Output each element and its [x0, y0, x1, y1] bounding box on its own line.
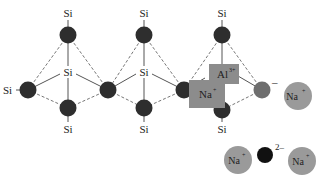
- tetrahedron-1: Si Si Si Si: [3, 7, 77, 135]
- sodium-ion: Na +: [284, 82, 312, 110]
- oxide-charge: 2–: [275, 142, 285, 152]
- tetrahedron-3: Si Si Al 3+ Na + –: [189, 7, 278, 135]
- oxygen-atom: [136, 27, 153, 44]
- na-label: Na: [199, 88, 212, 100]
- si-label-bottom: Si: [139, 123, 148, 135]
- svg-text:Na: Na: [228, 155, 240, 166]
- oxygen-atom: [136, 100, 153, 117]
- si-center-label: Si: [139, 66, 148, 78]
- sodium-ion: Na +: [288, 147, 316, 175]
- sodium-ion: Na +: [224, 146, 252, 174]
- si-center-label: Si: [63, 66, 72, 78]
- svg-text:Na: Na: [292, 156, 304, 167]
- oxygen-atom-negative: [254, 82, 271, 99]
- oxygen-atom: [60, 27, 77, 44]
- si-label-top: Si: [139, 7, 148, 19]
- free-ions: Na + Na + 2– Na +: [224, 82, 316, 175]
- oxygen-atom: [20, 82, 37, 99]
- si-label-bottom: Si: [217, 123, 226, 135]
- oxide-ion: 2–: [257, 142, 285, 163]
- oxide-ion-circle: [257, 147, 273, 163]
- negative-charge: –: [271, 76, 278, 88]
- si-label-top: Si: [63, 7, 72, 19]
- si-label-top: Si: [217, 7, 226, 19]
- al-label: Al: [217, 68, 228, 80]
- si-label-left: Si: [3, 84, 12, 96]
- svg-text:Na: Na: [286, 91, 298, 102]
- oxygen-atom-shared: [100, 82, 117, 99]
- oxygen-atom: [214, 27, 231, 44]
- aluminosilicate-diagram: Si Si Si Si Si Si Si Si Si Al 3+ Na + –: [0, 0, 326, 187]
- oxygen-atom: [60, 100, 77, 117]
- al-charge: 3+: [229, 67, 236, 73]
- si-label-bottom: Si: [63, 123, 72, 135]
